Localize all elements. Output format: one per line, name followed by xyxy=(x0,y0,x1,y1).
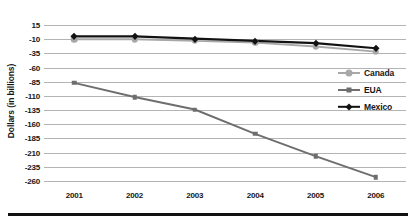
legend-label-mexico: Mexico xyxy=(364,102,392,112)
legend-swatch-mexico xyxy=(338,100,360,114)
legend-label-canada: Canada xyxy=(364,68,394,78)
data-point-eua-2003 xyxy=(193,107,198,112)
x-tick-label: 2003 xyxy=(186,191,203,200)
data-point-eua-2006 xyxy=(374,175,379,180)
x-tick-label: 2002 xyxy=(126,191,143,200)
legend-item-eua[interactable]: EUA xyxy=(338,81,416,98)
legend-marker xyxy=(347,87,352,92)
legend-marker xyxy=(345,103,352,110)
series-line-eua xyxy=(74,83,376,177)
legend-label-eua: EUA xyxy=(364,85,382,95)
legend-item-canada[interactable]: Canada xyxy=(338,64,416,81)
legend-swatch-eua xyxy=(338,83,360,97)
x-tick-label: 2005 xyxy=(307,191,324,200)
x-tick-label: 2004 xyxy=(247,191,264,200)
chart-figure: Dollars (in billions) 15-10-35-60-85-110… xyxy=(0,0,416,222)
x-tick-label: 2006 xyxy=(367,191,384,200)
x-tick-label: 2001 xyxy=(66,191,83,200)
bottom-divider xyxy=(8,213,408,216)
legend-marker xyxy=(346,69,353,76)
chart-legend: Canada EUA Mexico xyxy=(338,64,416,115)
legend-swatch-canada xyxy=(338,66,360,80)
data-point-eua-2002 xyxy=(132,95,137,100)
data-point-eua-2005 xyxy=(313,154,318,159)
data-point-eua-2004 xyxy=(253,132,258,137)
legend-item-mexico[interactable]: Mexico xyxy=(338,98,416,115)
data-point-eua-2001 xyxy=(72,81,77,86)
